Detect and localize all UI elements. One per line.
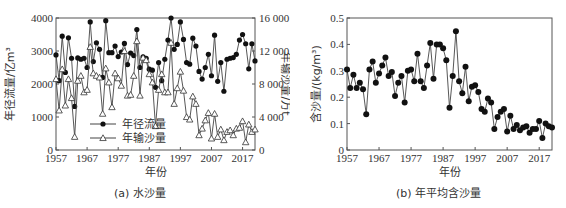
- data-point: [81, 56, 86, 61]
- data-point: [240, 32, 245, 37]
- data-point: [218, 60, 223, 65]
- x-tick-label: 1977: [107, 152, 130, 164]
- data-point: [475, 89, 481, 95]
- data-point: [174, 85, 180, 91]
- data-point: [137, 92, 143, 98]
- data-point: [221, 89, 226, 94]
- data-point: [112, 43, 117, 48]
- data-point: [88, 19, 93, 24]
- y-tick-label: 0.3: [330, 65, 344, 77]
- y-right-axis-title: 年输沙量/万t: [279, 52, 290, 116]
- data-point: [215, 79, 220, 84]
- data-point: [193, 43, 198, 48]
- chart-panel-a: 1957196719771987199720072017010002000300…: [0, 0, 290, 208]
- data-point: [175, 42, 180, 47]
- data-point: [252, 58, 257, 63]
- data-point: [395, 80, 401, 86]
- data-point: [549, 125, 555, 131]
- chart-sediment-concentration: 195719671977198719972007201700.10.20.30.…: [290, 0, 566, 208]
- data-point: [106, 79, 112, 85]
- data-point: [171, 101, 177, 107]
- data-point: [103, 18, 108, 23]
- data-point: [84, 87, 90, 93]
- data-point: [357, 80, 363, 86]
- chart-water-sediment: 1957196719771987199720072017010002000300…: [0, 0, 290, 208]
- caption-a: (a) 水沙量: [114, 184, 166, 200]
- data-point: [347, 85, 353, 91]
- data-point: [65, 76, 71, 82]
- data-point: [181, 37, 186, 42]
- data-point: [243, 41, 248, 46]
- y-tick-label: 3000: [31, 45, 54, 57]
- data-point: [78, 73, 84, 79]
- data-point: [246, 121, 252, 127]
- data-point: [392, 93, 398, 99]
- y-tick-label: 2000: [31, 78, 54, 90]
- data-point: [350, 72, 356, 78]
- data-point: [203, 65, 208, 70]
- x-tick-label: 1977: [400, 152, 423, 164]
- data-point: [109, 104, 115, 110]
- y-tick-label: 0.2: [330, 91, 344, 103]
- data-point: [533, 126, 539, 132]
- data-point: [211, 111, 217, 117]
- data-point: [202, 117, 208, 123]
- y-right-tick-label: 16 000: [259, 12, 290, 24]
- x-tick-label: 2017: [528, 152, 551, 164]
- data-point: [366, 66, 372, 72]
- y-axis-title: 年径流量/亿m³: [3, 47, 17, 121]
- data-point: [116, 54, 121, 59]
- data-point: [360, 86, 366, 92]
- data-point: [466, 98, 472, 104]
- data-point: [447, 105, 453, 111]
- data-point: [379, 63, 385, 69]
- data-point: [344, 66, 350, 72]
- data-point: [187, 62, 192, 67]
- data-point: [71, 134, 77, 140]
- data-point: [200, 76, 205, 81]
- data-point: [370, 59, 376, 65]
- data-point: [60, 34, 65, 39]
- chart-panel-b: 195719671977198719972007201700.10.20.30.…: [290, 0, 566, 208]
- data-point: [196, 132, 202, 138]
- data-point: [180, 87, 186, 93]
- x-tick-label: 2007: [496, 152, 519, 164]
- data-point: [234, 52, 239, 57]
- data-point: [131, 73, 137, 79]
- y-tick-label: 1000: [31, 111, 54, 123]
- data-point: [523, 123, 529, 129]
- data-point: [212, 33, 217, 38]
- data-point: [373, 80, 379, 86]
- data-point: [453, 28, 459, 34]
- data-point: [239, 118, 245, 124]
- data-point: [193, 101, 199, 107]
- data-point: [99, 111, 105, 117]
- data-point: [109, 50, 114, 55]
- data-point: [252, 126, 258, 132]
- data-point: [199, 125, 205, 131]
- data-point: [178, 19, 183, 24]
- x-tick-label: 1987: [138, 152, 161, 164]
- data-point: [172, 47, 177, 52]
- data-point: [456, 78, 462, 84]
- data-point: [159, 71, 165, 77]
- data-point: [427, 40, 433, 46]
- data-point: [134, 27, 139, 32]
- x-axis-title: 年份: [145, 165, 167, 179]
- data-point: [162, 57, 167, 62]
- x-tick-label: 2007: [200, 152, 223, 164]
- y-tick-label: 0: [48, 144, 54, 156]
- data-point: [190, 93, 196, 99]
- data-point: [488, 99, 494, 105]
- x-tick-label: 1997: [169, 152, 192, 164]
- data-point: [190, 36, 195, 41]
- data-point: [421, 85, 427, 91]
- data-point: [221, 137, 227, 143]
- y-axis-title: 含沙量/(kg/m³): [309, 45, 323, 122]
- caption-b: (b) 年平均含沙量: [396, 184, 481, 200]
- data-point: [398, 73, 404, 79]
- data-point: [501, 106, 507, 112]
- data-point: [354, 85, 360, 91]
- y-tick-label: 0.1: [330, 118, 344, 130]
- data-point: [208, 135, 214, 141]
